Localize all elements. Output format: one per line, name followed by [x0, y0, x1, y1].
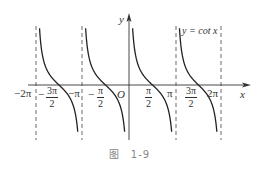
x-axis-label: x: [240, 89, 245, 100]
asymptotes: [36, 26, 221, 140]
tick-neg-two-pi: −2π: [14, 88, 31, 99]
tick-two-pi: 2π: [207, 88, 218, 99]
tick-neg-pi-half: π 2: [97, 86, 104, 109]
tick-neg-pi-half-sign: −: [88, 89, 94, 100]
cot-branch: [179, 28, 216, 131]
tick-neg-three-pi-half-sign: −: [38, 89, 44, 100]
cot-branch: [86, 28, 125, 131]
tick-neg-three-pi-half: 3π 2: [46, 86, 58, 109]
tick-neg-pi: −π: [68, 88, 80, 99]
cot-branch: [40, 28, 78, 131]
figure-caption: 图 1-9: [0, 146, 259, 161]
tick-three-pi-half: 3π 2: [185, 86, 197, 109]
curve-label: y = cot x: [182, 26, 217, 36]
origin-label: O: [117, 89, 125, 100]
tick-pi-half: π 2: [145, 86, 152, 109]
y-axis-label: y: [119, 14, 124, 25]
cot-curve: [40, 28, 217, 131]
cot-branch: [133, 28, 172, 131]
tick-pi: π: [167, 88, 173, 99]
